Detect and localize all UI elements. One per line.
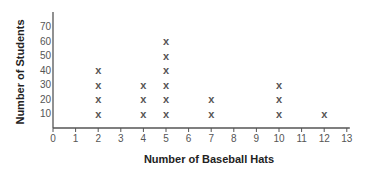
x-tick-label: 9 [254, 133, 260, 144]
y-tick-label: 70 [40, 21, 52, 32]
x-mark: x [95, 79, 102, 91]
x-tick-label: 7 [208, 133, 214, 144]
x-mark: x [163, 108, 170, 120]
y-tick-label: 60 [40, 36, 52, 47]
x-tick-label: 3 [118, 133, 124, 144]
x-tick-label: 11 [296, 133, 307, 144]
x-mark: x [321, 108, 328, 120]
x-mark: x [208, 93, 215, 105]
x-mark: x [276, 108, 283, 120]
x-mark: x [163, 50, 170, 62]
x-tick-label: 12 [319, 133, 331, 144]
y-axis-ticks: 10203040506070 [40, 21, 52, 119]
x-mark: x [163, 64, 170, 76]
x-axis-ticks: 012345678910111213 [50, 128, 353, 144]
x-mark: x [140, 108, 147, 120]
x-mark: x [208, 108, 215, 120]
y-tick-label: 10 [40, 108, 52, 119]
y-axis-label: Number of Students [14, 19, 26, 124]
line-plot-chart: 10203040506070 012345678910111213 xxxxxx… [0, 0, 387, 169]
y-tick-label: 20 [40, 94, 52, 105]
x-tick-label: 10 [273, 133, 285, 144]
x-mark: x [140, 79, 147, 91]
x-mark: x [163, 35, 170, 47]
x-tick-label: 8 [231, 133, 237, 144]
x-mark: x [276, 79, 283, 91]
x-tick-label: 13 [341, 133, 353, 144]
x-mark: x [276, 93, 283, 105]
x-mark: x [95, 64, 102, 76]
x-mark: x [95, 108, 102, 120]
y-tick-label: 30 [40, 79, 52, 90]
x-tick-label: 0 [50, 133, 56, 144]
y-tick-label: 40 [40, 65, 52, 76]
x-axis-label: Number of Baseball Hats [144, 153, 274, 165]
x-mark: x [163, 79, 170, 91]
data-marks: xxxxxxxxxxxxxxxxxxx [95, 35, 328, 120]
x-mark: x [163, 93, 170, 105]
x-tick-label: 2 [95, 133, 101, 144]
y-tick-label: 50 [40, 50, 52, 61]
x-tick-label: 6 [186, 133, 192, 144]
x-tick-label: 5 [163, 133, 169, 144]
x-mark: x [95, 93, 102, 105]
x-tick-label: 1 [73, 133, 79, 144]
x-mark: x [140, 93, 147, 105]
x-tick-label: 4 [141, 133, 147, 144]
